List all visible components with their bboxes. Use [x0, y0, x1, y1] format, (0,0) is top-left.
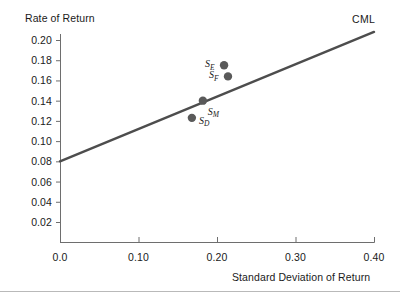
y-tick-label: 0.10 [10, 136, 52, 147]
y-tick-label: 0.02 [10, 217, 52, 228]
y-tick-label: 0.08 [10, 156, 52, 167]
y-tick-label: 0.12 [10, 116, 52, 127]
cml-annotation-label: CML [352, 14, 375, 25]
cml-scatter-chart: Rate of Return Standard Deviation of Ret… [0, 0, 400, 296]
data-point-label-se: SE [205, 59, 215, 69]
data-point-sd [188, 114, 196, 122]
x-tick-label: 0.20 [187, 252, 247, 263]
axis-lines [60, 34, 375, 243]
x-tick-label: 0.10 [109, 252, 169, 263]
x-axis-ticks [139, 237, 375, 243]
capital-market-line [60, 32, 374, 161]
data-point-label-sd: SD [199, 116, 209, 126]
y-tick-label: 0.20 [10, 35, 52, 46]
y-axis-title: Rate of Return [25, 13, 95, 24]
x-tick-label: 0.40 [344, 252, 400, 263]
data-point-sm [199, 96, 207, 104]
bottom-divider [0, 291, 400, 292]
data-point-label-sm: SM [208, 107, 219, 117]
x-tick-label: 0.0 [30, 252, 90, 263]
series-subscript: D [204, 119, 209, 128]
x-axis-title: Standard Deviation of Return [232, 272, 370, 283]
y-tick-label: 0.16 [10, 75, 52, 86]
series-subscript: M [213, 110, 219, 119]
y-tick-label: 0.18 [10, 55, 52, 66]
y-tick-label: 0.04 [10, 197, 52, 208]
data-point-label-sf: SF [209, 70, 219, 80]
y-tick-label: 0.14 [10, 96, 52, 107]
x-tick-label: 0.30 [266, 252, 326, 263]
cml-line [60, 32, 374, 161]
y-tick-label: 0.06 [10, 177, 52, 188]
data-point-sf [224, 72, 232, 80]
series-subscript: F [214, 74, 219, 83]
y-axis-ticks [56, 41, 61, 223]
data-point-se [220, 61, 228, 69]
